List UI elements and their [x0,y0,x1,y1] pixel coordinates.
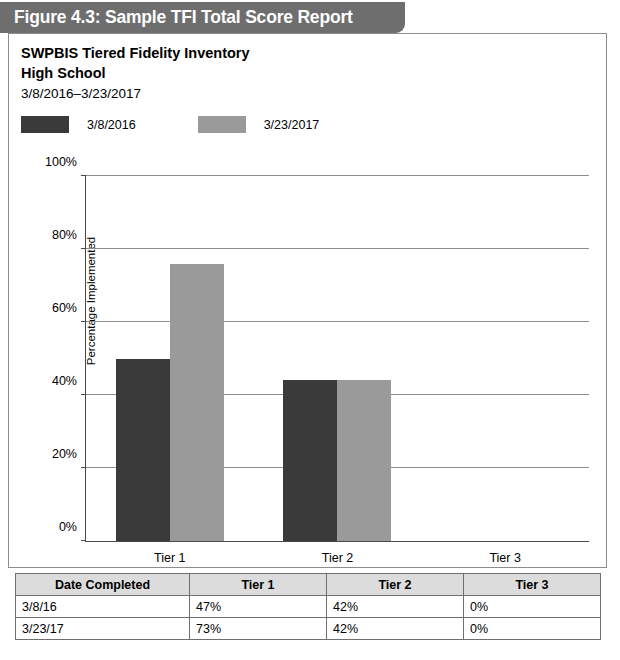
plot-area: 0%20%40%60%80%100%Tier 1Tier 2Tier 3 [86,176,589,541]
table-row: 3/23/17 73% 42% 0% [16,618,601,640]
table-header-tier3: Tier 3 [464,574,601,596]
report-title: SWPBIS Tiered Fidelity Inventory [21,43,250,63]
legend-entry-series-1: 3/8/2016 [21,116,136,133]
figure-banner: Figure 4.3: Sample TFI Total Score Repor… [0,2,405,33]
table-cell-tier3: 0% [464,618,601,640]
y-axis-tick-label: 100% [45,155,77,169]
x-axis-tick-label: Tier 3 [489,551,521,565]
bar-group-tier-2: Tier 2 [254,176,422,541]
x-axis-tick-label: Tier 1 [154,551,186,565]
bar-tier-2-series-2 [337,380,391,541]
table-cell-tier3: 0% [464,596,601,618]
table-header-tier1: Tier 1 [190,574,327,596]
legend-swatch-icon-series-1 [21,116,69,133]
table-header-tier2: Tier 2 [327,574,464,596]
table-cell-date: 3/23/17 [16,618,190,640]
y-axis-tick-label: 20% [52,447,77,461]
report-subtitle: High School [21,63,250,83]
x-axis-tick-label: Tier 2 [322,551,354,565]
report-date-range: 3/8/2016–3/23/2017 [21,84,250,104]
table-cell-date: 3/8/16 [16,596,190,618]
bar-tier-1-series-1 [116,359,170,542]
table-cell-tier2: 42% [327,596,464,618]
bar-tier-2-series-1 [283,380,337,541]
y-axis-tick-label: 40% [52,374,77,388]
legend-swatch-icon-series-2 [198,116,246,133]
y-axis-tick-label: 80% [52,228,77,242]
legend-entry-series-2: 3/23/2017 [198,116,320,133]
table-row: 3/8/16 47% 42% 0% [16,596,601,618]
figure-banner-title: Figure 4.3: Sample TFI Total Score Repor… [14,7,353,28]
chart-heading: SWPBIS Tiered Fidelity Inventory High Sc… [21,43,250,104]
bar-group-tier-3: Tier 3 [421,176,589,541]
table-cell-tier2: 42% [327,618,464,640]
chart-panel: SWPBIS Tiered Fidelity Inventory High Sc… [8,33,607,568]
legend-label-series-1: 3/8/2016 [87,118,136,132]
table-header-date: Date Completed [16,574,190,596]
y-axis-tick-label: 60% [52,301,77,315]
bar-group-tier-1: Tier 1 [86,176,254,541]
table-cell-tier1: 73% [190,618,327,640]
table-header-row: Date Completed Tier 1 Tier 2 Tier 3 [16,574,601,596]
chart-legend: 3/8/2016 3/23/2017 [21,116,319,133]
legend-label-series-2: 3/23/2017 [264,118,320,132]
y-axis-tick-label: 0% [59,520,77,534]
bar-tier-1-series-2 [170,264,224,541]
table-cell-tier1: 47% [190,596,327,618]
data-table: Date Completed Tier 1 Tier 2 Tier 3 3/8/… [15,573,601,640]
